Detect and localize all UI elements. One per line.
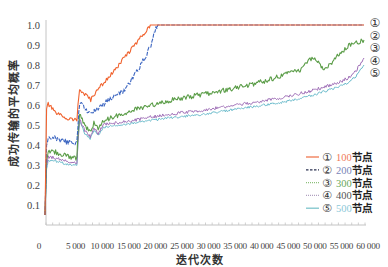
x-tick-label: 60 000 — [356, 241, 380, 251]
y-axis-title: 成功传输的平均概率 — [5, 56, 21, 171]
series-lines — [45, 25, 364, 215]
x-tick-label: 15 000 — [117, 241, 141, 251]
y-tick-label: 0.4 — [27, 140, 41, 151]
series-line-100 — [45, 25, 364, 215]
line-end-marker-100: ① — [370, 16, 381, 30]
x-axis-title: 迭代次数 — [0, 251, 388, 267]
legend-marker: ③ — [322, 177, 332, 190]
legend-label: 300节点 — [336, 177, 373, 189]
legend-marker: ② — [322, 164, 332, 177]
axes: 0.10.20.30.40.50.60.70.80.91.005 00010 0… — [27, 20, 381, 251]
y-tick-label: 1.0 — [27, 20, 40, 31]
series-line-300 — [45, 39, 364, 215]
x-tick-label: 5 000 — [66, 241, 86, 251]
x-tick-label: 35 000 — [223, 241, 247, 251]
legend-suffix: 节点 — [352, 164, 373, 176]
y-tick-label: 0.9 — [27, 40, 40, 51]
y-tick-label: 0.3 — [27, 160, 40, 171]
legend-item-300: ③300节点 — [306, 177, 373, 190]
legend-marker: ④ — [322, 189, 332, 202]
series-line-200 — [45, 25, 364, 215]
y-tick-label: 0.6 — [27, 100, 40, 111]
legend-item-400: ④400节点 — [306, 189, 373, 202]
legend: ①100节点②200节点③300节点④400节点⑤500节点 — [306, 151, 373, 215]
legend-node-count: 100 — [336, 152, 352, 163]
line-end-markers: ①②③④⑤ — [370, 16, 381, 80]
y-tick-label: 0.2 — [27, 180, 40, 191]
x-tick-label: 20 000 — [144, 241, 168, 251]
x-tick-label: 45 000 — [277, 241, 301, 251]
y-tick-label: 0.5 — [27, 120, 40, 131]
legend-marker: ① — [322, 151, 332, 164]
x-tick-label: 30 000 — [197, 241, 221, 251]
legend-item-200: ②200节点 — [306, 164, 373, 177]
x-tick-label: 10 000 — [90, 241, 114, 251]
legend-label: 200节点 — [336, 164, 373, 176]
y-tick-label: 0.1 — [27, 200, 40, 211]
line-end-marker-500: ⑤ — [370, 66, 381, 80]
y-tick-label: 0.8 — [27, 60, 40, 71]
x-tick-label: 40 000 — [250, 241, 274, 251]
legend-node-count: 400 — [336, 190, 352, 201]
legend-label: 400节点 — [336, 189, 373, 201]
series-line-400 — [45, 58, 364, 215]
legend-label: 100节点 — [336, 151, 373, 163]
legend-suffix: 节点 — [352, 202, 373, 214]
legend-suffix: 节点 — [352, 177, 373, 189]
legend-node-count: 200 — [336, 165, 352, 176]
x-tick-label: 0 — [37, 241, 42, 251]
legend-node-count: 300 — [336, 178, 352, 189]
legend-node-count: 500 — [336, 203, 352, 214]
legend-marker: ⑤ — [322, 202, 332, 215]
series-line-500 — [45, 65, 364, 215]
legend-suffix: 节点 — [352, 189, 373, 201]
x-tick-label: 55 000 — [330, 241, 354, 251]
legend-label: 500节点 — [336, 202, 373, 214]
x-tick-label: 50 000 — [303, 241, 327, 251]
legend-item-500: ⑤500节点 — [306, 202, 373, 215]
line-end-marker-300: ③ — [370, 41, 381, 55]
x-tick-label: 25 000 — [170, 241, 194, 251]
legend-item-100: ①100节点 — [306, 151, 373, 164]
legend-suffix: 节点 — [352, 151, 373, 163]
y-tick-label: 0.7 — [27, 80, 40, 91]
